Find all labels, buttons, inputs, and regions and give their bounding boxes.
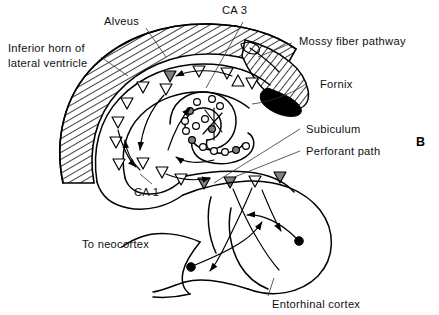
label-alveus: Alveus — [104, 15, 139, 27]
to-neocortex-tail — [153, 294, 190, 297]
mossy-origin-arrow — [176, 157, 214, 162]
pyramidal-cell — [160, 84, 172, 95]
label-to-neocortex: To neocortex — [82, 238, 149, 250]
pyramidal-cell — [164, 71, 176, 82]
pyramidal-cell — [137, 82, 149, 93]
label-perforant-path: Perforant path — [306, 145, 380, 157]
pyramidal-cell — [121, 98, 133, 109]
granule-cell — [200, 144, 207, 151]
label-fornix: Fornix — [320, 78, 353, 90]
label-mossy-fiber-pathway: Mossy fiber pathway — [299, 35, 406, 47]
entorhinal-internal-fold — [229, 208, 268, 289]
label-ca1: CA 1 — [134, 186, 159, 198]
granule-cell — [211, 148, 218, 155]
label-subiculum: Subiculum — [306, 123, 360, 135]
granule-cell — [202, 116, 209, 123]
pyramidal-cell — [112, 117, 124, 128]
label-inferior-horn-line1: Inferior horn of — [8, 42, 85, 54]
leader-ca1 — [140, 174, 152, 184]
granule-cell — [233, 147, 240, 154]
granule-cell — [243, 143, 250, 150]
label-entorhinal-cortex: Entorhinal cortex — [272, 298, 360, 310]
entorhinal-outer-contour — [183, 181, 331, 294]
granule-cell — [189, 137, 196, 144]
panel-label-b: B — [416, 135, 425, 149]
ca-descending-arrow — [140, 95, 164, 150]
label-inferior-horn-line2: lateral ventricle — [8, 57, 88, 69]
granule-cell — [194, 99, 201, 106]
entorhinal-lower-contour — [153, 280, 248, 292]
pyramidal-cell — [246, 78, 258, 89]
leader-perforant-path — [232, 151, 300, 178]
perforant-fiber-oblique — [210, 188, 252, 271]
entorhinal-internal-fold-2 — [208, 197, 216, 253]
granule-cell — [209, 126, 216, 133]
perforant-path-fibers — [187, 188, 304, 271]
pyramidal-cell — [156, 167, 168, 178]
granule-cell — [209, 96, 216, 103]
diagram-canvas: Inferior horn of lateral ventricle Alveu… — [0, 0, 439, 315]
label-ca3: CA 3 — [222, 4, 247, 16]
entorhinal-neuron-soma — [187, 263, 196, 272]
pyramidal-cell — [232, 75, 244, 86]
granule-cell — [217, 103, 224, 110]
perforant-fiber-descending — [262, 190, 281, 231]
granule-cell — [193, 123, 200, 130]
granule-cell — [183, 128, 190, 135]
pyramidal-cell — [137, 158, 149, 169]
granule-cell — [222, 149, 229, 156]
hippocampus-diagram-figure: Inferior horn of lateral ventricle Alveu… — [0, 0, 439, 315]
subiculum-entorhinal-outline — [153, 171, 331, 293]
